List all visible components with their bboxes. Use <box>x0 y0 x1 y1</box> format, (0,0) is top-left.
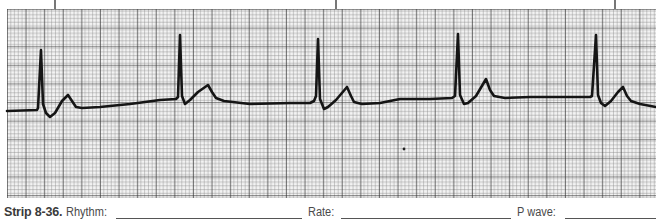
ecg-strip <box>0 0 656 200</box>
artifact-dot <box>403 148 406 151</box>
rate-answer-field[interactable] <box>341 205 511 219</box>
strip-id-label: Strip 8-36. <box>4 205 62 219</box>
p-wave-label: P wave: <box>517 205 556 219</box>
time-marks <box>55 0 615 9</box>
strip-caption: Strip 8-36. Rhythm: Rate: P wave: <box>4 201 656 219</box>
rhythm-answer-field[interactable] <box>116 205 303 219</box>
p-wave-answer-field[interactable] <box>565 205 656 219</box>
rhythm-label: Rhythm: <box>66 205 107 219</box>
rate-label: Rate: <box>308 205 334 219</box>
